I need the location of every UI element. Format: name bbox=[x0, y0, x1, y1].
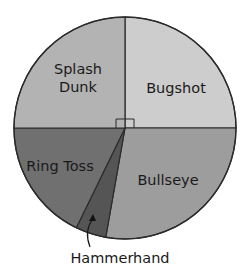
pie-slices bbox=[14, 17, 236, 239]
slice-label-bugshot: Bugshot bbox=[146, 80, 206, 96]
slice-label-ring-toss: Ring Toss bbox=[26, 158, 93, 174]
pie-slice-bugshot bbox=[125, 17, 236, 128]
pie-chart: BugshotBullseyeRing TossSplashDunk Hamme… bbox=[0, 0, 246, 274]
slice-label-bullseye: Bullseye bbox=[137, 172, 198, 188]
callout-label-hammerhand: Hammerhand bbox=[70, 250, 169, 266]
